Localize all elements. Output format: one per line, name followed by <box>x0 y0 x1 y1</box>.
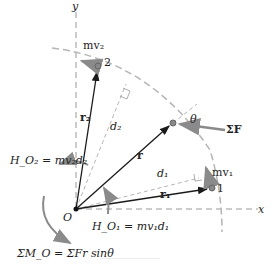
r2-label: r₂ <box>80 112 91 123</box>
point-2-label: 2 <box>104 57 111 68</box>
d2-label: d₂ <box>110 121 121 132</box>
d2-line <box>76 84 126 209</box>
y-axis-label: y <box>72 1 78 12</box>
theta-label: θ <box>190 114 197 125</box>
r1-label: r₁ <box>160 189 171 200</box>
particle-1 <box>209 185 215 191</box>
trajectory-arc <box>52 48 222 232</box>
point-1-label: 1 <box>217 183 224 194</box>
mv2-label: mv₂ <box>83 40 104 51</box>
H-O2-equation: H_O₂ = mv₂d₂ <box>10 155 87 166</box>
x-axis-label: x <box>258 204 264 215</box>
r-label: r <box>137 150 143 161</box>
mv1-label: mv₁ <box>212 167 233 178</box>
particle-2 <box>95 63 101 69</box>
figure-caption-faded <box>100 258 160 263</box>
sum-F-label: ΣF <box>226 124 242 135</box>
particle <box>170 120 176 126</box>
origin-label: O <box>63 212 72 223</box>
d1-label: d₁ <box>157 168 168 179</box>
origin-point <box>74 207 79 212</box>
sum-force-vector <box>180 124 225 130</box>
r2-vector <box>76 72 97 209</box>
H-O1-equation: H_O₁ = mv₁d₁ <box>92 221 169 232</box>
